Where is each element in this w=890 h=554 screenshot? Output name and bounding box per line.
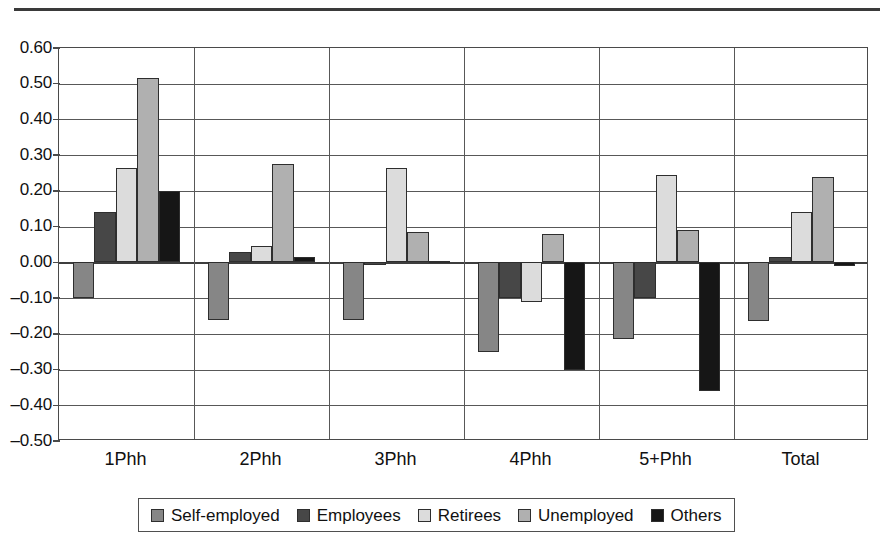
y-axis-tick-mark [53,440,60,441]
bar [564,262,586,369]
bar [208,262,230,319]
y-axis-tick-label: 0.00 [0,253,52,270]
bar [386,168,408,263]
y-axis-tick-label: 0.10 [0,217,52,234]
grouped-bar-chart: 0.600.500.400.300.200.100.00–0.10–0.20–0… [0,0,890,554]
bar [656,175,678,263]
chart-legend: Self-employedEmployeesRetireesUnemployed… [138,498,735,532]
bar [429,261,451,263]
legend-swatch-icon [418,509,431,522]
x-axis-tick-label: 2Phh [193,448,328,470]
y-axis-tick-label: 0.60 [0,39,52,56]
bar [94,212,116,262]
bar [791,212,813,262]
bar [478,262,500,351]
y-axis-tick-label: 0.40 [0,110,52,127]
legend-swatch-icon [297,509,310,522]
x-axis: 1Phh2Phh3Phh4Phh5+PhhTotal [58,448,868,476]
bar [613,262,635,339]
x-axis-tick-label: 5+Phh [598,448,733,470]
bar [677,230,699,262]
bar [343,262,365,319]
y-axis-tick-label: –0.30 [0,360,52,377]
plot-area [58,47,868,440]
legend-label: Others [671,507,722,524]
bar [137,78,159,263]
y-axis-tick-label: –0.10 [0,289,52,306]
y-axis-tick-label: –0.50 [0,432,52,449]
bar [272,164,294,262]
bar [251,246,273,262]
legend-label: Retirees [438,507,501,524]
bar [812,177,834,263]
legend-entry: Others [651,507,722,524]
bar [364,262,386,264]
legend-label: Self-employed [171,507,280,524]
legend-entry: Unemployed [518,507,633,524]
bar [769,257,791,262]
legend-label: Unemployed [538,507,633,524]
bar [159,191,181,262]
bar [73,262,95,298]
y-axis-tick-label: –0.40 [0,396,52,413]
y-axis: 0.600.500.400.300.200.100.00–0.10–0.20–0… [0,0,52,554]
x-axis-tick-label: 4Phh [463,448,598,470]
y-axis-tick-label: 0.20 [0,181,52,198]
x-axis-tick-label: 1Phh [58,448,193,470]
bar [699,262,721,391]
y-axis-tick-label: 0.50 [0,74,52,91]
bars-layer [59,48,867,439]
bar [834,262,856,266]
x-axis-tick-label: 3Phh [328,448,463,470]
bar [229,252,251,263]
bar [294,257,316,262]
bar [499,262,521,298]
legend-swatch-icon [651,509,664,522]
y-axis-tick-label: –0.20 [0,324,52,341]
legend-swatch-icon [151,509,164,522]
bar [748,262,770,321]
legend-entry: Self-employed [151,507,280,524]
legend-entry: Employees [297,507,401,524]
bar [521,262,543,301]
x-axis-tick-label: Total [733,448,868,470]
y-axis-tick-label: 0.30 [0,146,52,163]
bar [634,262,656,298]
bar [407,232,429,262]
legend-label: Employees [317,507,401,524]
bar [116,168,138,263]
bar [542,234,564,263]
legend-entry: Retirees [418,507,501,524]
legend-swatch-icon [518,509,531,522]
